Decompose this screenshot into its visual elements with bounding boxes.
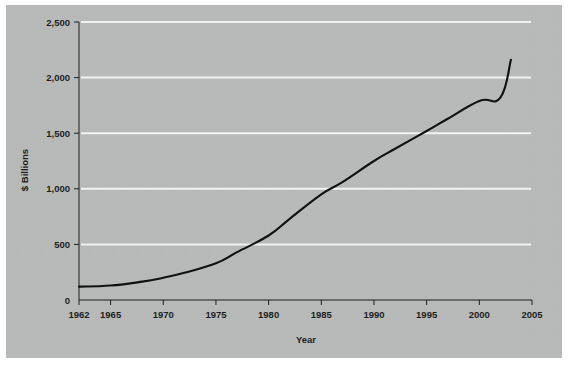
- data-series-line: [79, 60, 511, 287]
- gridlines: [81, 22, 531, 244]
- x-tick-label: 1975: [205, 309, 227, 320]
- chart-figure: 05001,0001,5002,0002,500 196219651970197…: [6, 5, 562, 358]
- y-tick-marks: [74, 22, 79, 244]
- x-tick-label: 1962: [68, 309, 89, 320]
- x-tick-label: 1980: [258, 309, 279, 320]
- x-tick-label: 1995: [416, 309, 438, 320]
- y-tick-label: 0: [65, 295, 70, 306]
- x-tick-label: 1990: [363, 309, 384, 320]
- x-tick-label: 2005: [521, 309, 543, 320]
- y-tick-labels: 05001,0001,5002,0002,500: [46, 17, 70, 306]
- line-chart: 05001,0001,5002,0002,500 196219651970197…: [6, 5, 562, 358]
- y-axis-title: $ Billions: [19, 149, 30, 191]
- x-tick-label: 1985: [311, 309, 333, 320]
- y-tick-label: 500: [54, 239, 70, 250]
- x-tick-label: 1965: [100, 309, 122, 320]
- x-axis-title: Year: [296, 334, 316, 345]
- y-tick-label: 2,000: [46, 72, 70, 83]
- x-tick-label: 1970: [153, 309, 174, 320]
- x-tick-label: 2000: [469, 309, 490, 320]
- y-tick-label: 1,000: [46, 183, 70, 194]
- y-tick-label: 2,500: [46, 17, 70, 28]
- y-tick-label: 1,500: [46, 128, 70, 139]
- x-tick-labels: 1962196519701975198019851990199520002005: [68, 309, 543, 320]
- x-tick-marks: [79, 300, 532, 305]
